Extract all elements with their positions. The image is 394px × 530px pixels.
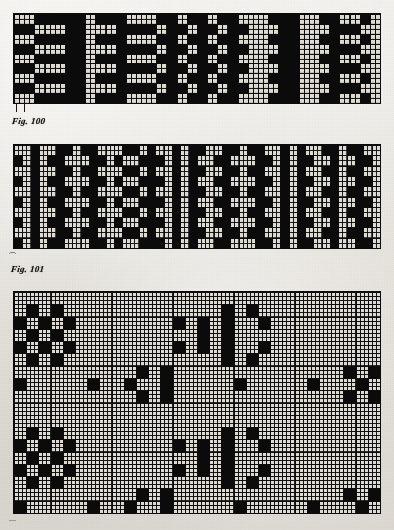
pattern-cell-filled: [258, 317, 271, 330]
pattern-cell-grid: [51, 488, 64, 501]
pattern-cell-grid: [75, 292, 88, 305]
pattern-cell-grid: [319, 452, 332, 465]
pattern-cell-grid: [173, 501, 186, 513]
pattern-cell-filled: [38, 464, 51, 477]
pattern-cell-grid: [87, 366, 100, 379]
pattern-cell-grid: [160, 452, 173, 465]
pattern-cell-grid: [331, 353, 344, 366]
pattern-cell-grid: [51, 415, 64, 428]
pattern-cell-grid: [38, 501, 51, 513]
pattern-cell-filled: [51, 452, 64, 465]
pattern-cell-grid: [234, 488, 247, 501]
pattern-cell-grid: [319, 390, 332, 403]
pattern-cell-grid: [51, 390, 64, 403]
pattern-cell-grid: [270, 415, 283, 428]
figure-100-tick-2: [24, 103, 25, 112]
pattern-cell-grid: [160, 403, 173, 416]
pattern-cell-grid: [185, 292, 198, 305]
pattern-cell-grid: [282, 292, 295, 305]
pattern-cell-filled: [63, 439, 76, 452]
pattern-cell-grid: [248, 93, 259, 103]
pattern-cell-grid: [270, 304, 283, 317]
pattern-cell-grid: [209, 366, 222, 379]
pattern-cell-filled: [38, 341, 51, 354]
pattern-cell-grid: [148, 415, 161, 428]
pattern-cell-filled: [221, 452, 234, 465]
pattern-cell-grid: [51, 439, 64, 452]
pattern-cell-grid: [372, 186, 380, 197]
pattern-cell-grid: [319, 317, 332, 330]
pattern-cell-grid: [209, 452, 222, 465]
pattern-cell-grid: [246, 464, 259, 477]
pattern-cell-grid: [136, 93, 147, 103]
pattern-cell-grid: [112, 488, 125, 501]
pattern-cell-grid: [234, 292, 247, 305]
pattern-cell-grid: [209, 353, 222, 366]
pattern-cell-grid: [368, 427, 380, 440]
pattern-cell-filled: [14, 501, 27, 513]
pattern-cell-grid: [372, 238, 380, 248]
pattern-cell-grid: [185, 317, 198, 330]
pattern-cell-grid: [331, 439, 344, 452]
pattern-cell-grid: [356, 341, 369, 354]
pattern-cell-grid: [368, 452, 380, 465]
pattern-cell-grid: [173, 378, 186, 391]
pattern-cell-filled: [95, 93, 106, 103]
pattern-cell-grid: [343, 403, 356, 416]
pattern-cell-grid: [75, 488, 88, 501]
pattern-cell-grid: [307, 353, 320, 366]
pattern-cell-filled: [167, 93, 178, 103]
pattern-cell-grid: [75, 317, 88, 330]
pattern-cell-grid: [99, 476, 112, 489]
pattern-cell-grid: [185, 329, 198, 342]
pattern-cell-filled: [87, 501, 100, 513]
pattern-cell-filled: [307, 501, 320, 513]
pattern-cell-grid: [319, 292, 332, 305]
pattern-cell-grid: [368, 317, 380, 330]
pattern-cell-grid: [112, 476, 125, 489]
pattern-cell-grid: [197, 427, 210, 440]
pattern-cell-grid: [372, 197, 380, 208]
pattern-cell-filled: [160, 390, 173, 403]
pattern-cell-filled: [258, 341, 271, 354]
pattern-cell-grid: [87, 390, 100, 403]
pattern-cell-grid: [209, 329, 222, 342]
pattern-cell-grid: [173, 366, 186, 379]
pattern-cell-grid: [14, 329, 27, 342]
pattern-cell-grid: [197, 378, 210, 391]
pattern-cell-grid: [307, 452, 320, 465]
pattern-cell-grid: [99, 415, 112, 428]
pattern-cell-filled: [38, 439, 51, 452]
pattern-cell-filled: [160, 366, 173, 379]
pattern-cell-grid: [197, 501, 210, 513]
pattern-cell-grid: [63, 378, 76, 391]
pattern-cell-filled: [160, 488, 173, 501]
pattern-cell-grid: [38, 488, 51, 501]
pattern-cell-grid: [177, 93, 188, 103]
figure-101: [14, 145, 380, 248]
pattern-cell-grid: [368, 501, 380, 513]
pattern-cell-grid: [124, 439, 137, 452]
pattern-cell-grid: [282, 329, 295, 342]
pattern-cell-grid: [282, 403, 295, 416]
pattern-cell-filled: [55, 93, 66, 103]
pattern-cell-grid: [209, 488, 222, 501]
pattern-cell-grid: [307, 427, 320, 440]
pattern-cell-grid: [307, 329, 320, 342]
pattern-cell-grid: [282, 427, 295, 440]
pattern-cell-filled: [368, 390, 380, 403]
pattern-cell-grid: [234, 427, 247, 440]
pattern-cell-grid: [136, 415, 149, 428]
pattern-cell-grid: [112, 329, 125, 342]
pattern-cell-grid: [148, 427, 161, 440]
pattern-cell-grid: [136, 476, 149, 489]
pattern-cell-grid: [75, 439, 88, 452]
pattern-cell-grid: [14, 403, 27, 416]
pattern-cell-grid: [124, 329, 137, 342]
pattern-cell-filled: [197, 452, 210, 465]
pattern-cell-grid: [258, 93, 269, 103]
pattern-cell-grid: [63, 427, 76, 440]
pattern-cell-filled: [360, 93, 371, 103]
pattern-cell-grid: [99, 488, 112, 501]
pattern-cell-grid: [197, 366, 210, 379]
